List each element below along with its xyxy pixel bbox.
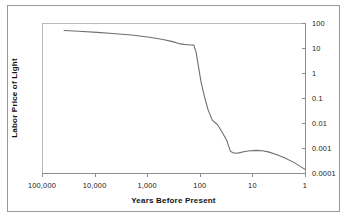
y-axis-title: Labor Price of Light (10, 58, 19, 138)
x-tick-label: 10 (248, 181, 257, 190)
data-series-group (64, 31, 305, 170)
x-tick-label: 1 (303, 181, 307, 190)
y-tick-label: 0.001 (312, 144, 332, 153)
x-axis-title: Years Before Present (42, 196, 305, 205)
y-tick-label: 0.1 (312, 94, 323, 103)
x-tick-label: 1,000 (137, 181, 157, 190)
y-tick-label: 100 (312, 19, 325, 28)
y-tick-label: 0.0001 (312, 169, 336, 178)
y-tick-label: 0.01 (312, 119, 327, 128)
y-tick-label: 10 (312, 44, 321, 53)
y-tick-marks (302, 24, 306, 174)
x-tick-label: 10,000 (83, 181, 107, 190)
x-tick-label: 100,000 (28, 181, 56, 190)
x-tick-label: 100 (193, 181, 206, 190)
y-tick-label: 1 (312, 69, 316, 78)
chart-figure: 1001010.10.010.0010.0001 100,00010,0001,… (0, 0, 361, 222)
data-line-labor-price-of-light (64, 31, 305, 170)
